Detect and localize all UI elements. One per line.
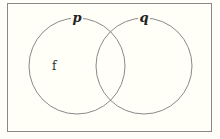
set-q-label: q xyxy=(139,10,148,25)
element-f: f xyxy=(52,59,58,73)
set-q-circle xyxy=(96,18,192,114)
set-p-label: p xyxy=(72,10,81,25)
set-p-circle xyxy=(29,18,125,114)
venn-diagram: p q f xyxy=(0,0,220,139)
